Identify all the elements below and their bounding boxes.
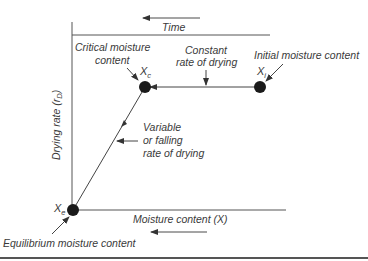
equilibrium-point-label: Xe — [53, 202, 66, 217]
drying-rate-diagram: Time Drying rate (rD) Moisture content (… — [0, 0, 368, 261]
initial-caption: Initial moisture content — [254, 49, 360, 61]
bottom-rule — [0, 257, 368, 259]
initial-pointer-arrow — [266, 64, 283, 81]
falling-rate-direction-icon — [121, 120, 127, 127]
moisture-axis-label: Moisture content (X) — [133, 213, 228, 225]
falling-rate-label-line1: Variable — [143, 121, 181, 133]
falling-rate-label-line2: or falling — [143, 134, 183, 146]
equilibrium-moisture-point — [67, 204, 79, 216]
time-label: Time — [162, 21, 185, 33]
critical-point-label: Xc — [139, 65, 151, 80]
falling-rate-line — [73, 87, 145, 210]
critical-caption-line2: content — [95, 54, 131, 66]
initial-moisture-point — [254, 81, 266, 93]
falling-rate-label-line3: rate of drying — [143, 147, 204, 159]
initial-point-label: Xi — [256, 65, 266, 80]
constant-rate-label-line1: Constant — [185, 44, 228, 56]
critical-moisture-point — [139, 81, 151, 93]
critical-caption-line1: Critical moisture — [75, 41, 150, 53]
constant-rate-label-line2: rate of drying — [176, 56, 237, 68]
equilibrium-pointer-arrow — [52, 217, 69, 234]
critical-pointer-arrow — [127, 68, 138, 80]
drying-rate-axis-label: Drying rate (rD) — [50, 90, 64, 160]
equilibrium-caption: Equilibrium moisture content — [3, 237, 137, 249]
